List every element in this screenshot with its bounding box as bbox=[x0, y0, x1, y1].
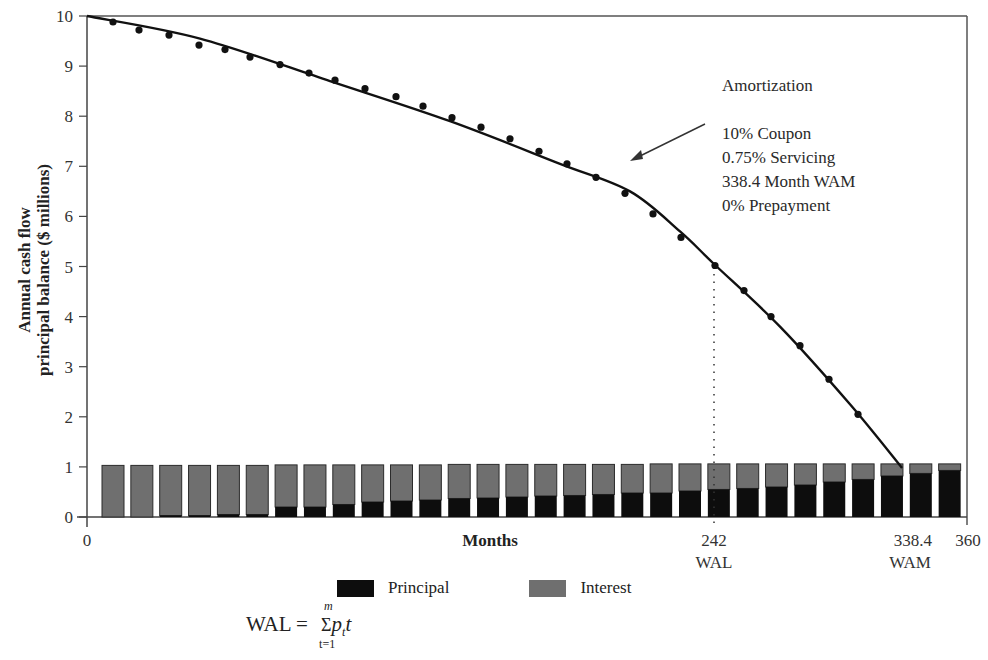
legend-label-interest: Interest bbox=[580, 578, 631, 598]
balance-point bbox=[331, 77, 338, 84]
bar-principal bbox=[823, 482, 845, 517]
legend: Principal Interest bbox=[337, 578, 631, 598]
bar-interest bbox=[766, 464, 788, 487]
balance-point bbox=[419, 103, 426, 110]
bar-interest bbox=[564, 464, 586, 495]
x-tick-label-360: 360 bbox=[955, 531, 981, 550]
balance-point bbox=[535, 148, 542, 155]
y-tick-label: 10 bbox=[56, 7, 73, 26]
bar-interest bbox=[535, 464, 557, 496]
balance-point bbox=[649, 210, 656, 217]
bar-interest bbox=[679, 464, 701, 491]
balance-point bbox=[361, 85, 368, 92]
x-tick-sublabel-wam: WAM bbox=[889, 553, 931, 572]
svg-text:Annual cash flow: Annual cash flow bbox=[15, 206, 34, 332]
arrow-head-icon bbox=[630, 150, 643, 161]
bar-interest bbox=[737, 464, 759, 489]
legend-label-principal: Principal bbox=[388, 578, 449, 598]
y-tick-label: 9 bbox=[65, 57, 74, 76]
balance-point bbox=[677, 234, 684, 241]
bar-principal bbox=[160, 515, 182, 517]
x-tick-label-0: 0 bbox=[83, 531, 92, 550]
balance-point bbox=[246, 53, 253, 60]
bar-interest bbox=[419, 465, 441, 500]
bar-interest bbox=[823, 464, 845, 482]
sigma-symbol: Σmt=1 bbox=[321, 615, 331, 636]
annotation-title: Amortization bbox=[722, 74, 855, 98]
y-tick-label: 8 bbox=[65, 107, 74, 126]
balance-point bbox=[221, 46, 228, 53]
bar-interest bbox=[592, 464, 614, 494]
annotation-prepayment: 0% Prepayment bbox=[722, 194, 855, 218]
bar-interest bbox=[794, 464, 816, 485]
bar-interest bbox=[189, 465, 211, 515]
annotation-coupon: 10% Coupon bbox=[722, 122, 855, 146]
bar-interest bbox=[621, 464, 643, 493]
bar-interest bbox=[708, 464, 730, 490]
bar-interest bbox=[477, 464, 499, 498]
bar-principal bbox=[246, 514, 268, 517]
bar-interest bbox=[217, 465, 239, 514]
balance-point bbox=[825, 376, 832, 383]
bar-principal bbox=[535, 496, 557, 517]
balance-point bbox=[276, 61, 283, 68]
y-tick-label: 0 bbox=[65, 508, 74, 527]
bar-principal bbox=[621, 493, 643, 517]
x-tick-label-wam: 338.4 bbox=[894, 531, 933, 550]
bar-interest bbox=[304, 465, 326, 507]
svg-text:principal balance ($ millions): principal balance ($ millions) bbox=[34, 164, 53, 376]
bar-principal bbox=[362, 502, 384, 517]
annotation-wam: 338.4 Month WAM bbox=[722, 170, 855, 194]
balance-point bbox=[711, 262, 718, 269]
bar-interest bbox=[160, 465, 182, 515]
balance-point bbox=[740, 287, 747, 294]
bar-interest bbox=[275, 465, 297, 507]
bar-principal bbox=[737, 488, 759, 517]
y-tick-label: 3 bbox=[65, 358, 74, 377]
bar-interest bbox=[650, 464, 672, 493]
bar-principal bbox=[939, 470, 961, 517]
balance-point bbox=[195, 41, 202, 48]
balance-point bbox=[165, 31, 172, 38]
x-tick-sublabel-wal: WAL bbox=[696, 553, 733, 572]
formula-term: p bbox=[332, 612, 343, 636]
balance-point bbox=[767, 313, 774, 320]
bar-principal bbox=[564, 495, 586, 517]
bar-principal bbox=[910, 473, 932, 517]
bar-principal bbox=[679, 491, 701, 517]
bar-principal bbox=[189, 515, 211, 517]
annotation-servicing: 0.75% Servicing bbox=[722, 146, 855, 170]
y-tick-label: 4 bbox=[65, 308, 74, 327]
bar-interest bbox=[246, 465, 268, 514]
bar-interest bbox=[102, 465, 124, 517]
bar-principal bbox=[217, 514, 239, 517]
y-tick-label: 7 bbox=[65, 157, 74, 176]
bar-interest bbox=[131, 465, 153, 517]
bar-principal bbox=[650, 493, 672, 517]
bar-interest bbox=[939, 464, 961, 471]
balance-point bbox=[796, 342, 803, 349]
bar-interest bbox=[362, 465, 384, 502]
bar-principal bbox=[852, 479, 874, 517]
balance-point bbox=[305, 70, 312, 77]
bar-principal bbox=[592, 494, 614, 517]
bar-principal bbox=[391, 501, 413, 517]
y-axis-title: Annual cash flowprincipal balance ($ mil… bbox=[15, 164, 53, 376]
balance-point bbox=[621, 190, 628, 197]
y-tick-label: 2 bbox=[65, 408, 74, 427]
bar-principal bbox=[275, 507, 297, 517]
y-tick-label: 5 bbox=[65, 258, 74, 277]
bar-interest bbox=[333, 465, 355, 505]
x-axis-title: Months bbox=[462, 531, 518, 550]
balance-point bbox=[592, 174, 599, 181]
annotation-arrow bbox=[636, 124, 705, 158]
balance-point bbox=[506, 135, 513, 142]
bar-interest bbox=[506, 464, 528, 497]
bar-principal bbox=[881, 476, 903, 517]
bar-principal bbox=[448, 498, 470, 517]
bar-interest bbox=[852, 464, 874, 480]
legend-swatch-principal bbox=[337, 580, 374, 597]
bar-principal bbox=[794, 485, 816, 517]
wal-formula: WAL = Σmt=1ptt bbox=[246, 612, 351, 640]
bar-interest bbox=[391, 465, 413, 501]
